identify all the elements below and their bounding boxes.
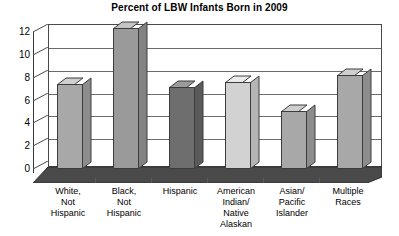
bar-hispanic[interactable] <box>169 87 195 169</box>
y-tick-label-0: 0 <box>4 164 30 174</box>
bar-front-face <box>57 84 83 169</box>
bar-side-face <box>250 82 260 169</box>
y-tick-label-10: 10 <box>4 50 30 60</box>
bar-front-face <box>169 87 195 169</box>
x-axis-tick-2 <box>151 178 152 183</box>
bar-white-not-hispanic[interactable] <box>57 84 83 169</box>
bar-front-face <box>113 28 139 169</box>
gridline-6 <box>49 94 381 95</box>
bar-multiple-races[interactable] <box>337 75 363 169</box>
bar-side-face <box>138 28 148 169</box>
depth-connector-12 <box>33 24 50 34</box>
y-tick-label-6: 6 <box>4 96 30 106</box>
bar-side-face <box>306 111 316 169</box>
bar-front-face <box>337 75 363 169</box>
gridline-2 <box>49 139 381 140</box>
x-axis-tick-5 <box>319 178 320 183</box>
bar-asian-pacific-islander[interactable] <box>281 111 307 169</box>
bar-side-face <box>194 87 204 169</box>
y-tick-label-12: 12 <box>4 27 30 37</box>
depth-connector-6 <box>33 93 50 103</box>
chart-container: Percent of LBW Infants Born in 2009 12 1… <box>0 0 399 236</box>
gridline-8 <box>49 71 381 72</box>
gridline-4 <box>49 116 381 117</box>
plot-area <box>48 24 382 167</box>
depth-connector-10 <box>33 47 50 57</box>
x-label-hispanic: Hispanic <box>152 186 208 197</box>
depth-connector-8 <box>33 70 50 80</box>
bar-front-face <box>281 111 307 169</box>
bar-side-face <box>82 84 92 169</box>
bar-side-face <box>362 75 372 169</box>
x-label-multiple-races: Multiple Races <box>320 186 376 208</box>
chart-title: Percent of LBW Infants Born in 2009 <box>0 2 399 13</box>
y-tick-label-2: 2 <box>4 141 30 151</box>
gridline-10 <box>49 48 381 49</box>
depth-connector-2 <box>33 138 50 148</box>
y-tick-label-8: 8 <box>4 73 30 83</box>
depth-connector-4 <box>33 115 50 125</box>
y-tick-label-4: 4 <box>4 118 30 128</box>
x-axis-tick-1 <box>95 178 96 183</box>
bar-american-indian-native-alaskan[interactable] <box>225 82 251 169</box>
x-label-white-not-hispanic: White, Not Hispanic <box>40 186 96 219</box>
x-axis-tick-3 <box>207 178 208 183</box>
x-label-black-not-hispanic: Black, Not Hispanic <box>96 186 152 219</box>
x-axis-tick-4 <box>263 178 264 183</box>
x-label-asian-pacific-islander: Asian/ Pacific Islander <box>264 186 320 219</box>
x-label-american-indian-native-alaskan: American Indian/ Native Alaskan <box>208 186 264 230</box>
bar-black-not-hispanic[interactable] <box>113 28 139 169</box>
bar-front-face <box>225 82 251 169</box>
